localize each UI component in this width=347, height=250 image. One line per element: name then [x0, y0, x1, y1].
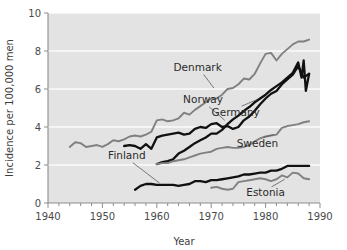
series-label-norway: Norway	[183, 93, 223, 105]
xtick-label-1970: 1970	[198, 211, 223, 222]
x-axis-title: Year	[172, 236, 195, 247]
xtick-label-1990: 1990	[307, 211, 332, 222]
series-label-sweden: Sweden	[237, 137, 279, 149]
ytick-label-2: 2	[35, 160, 41, 171]
xtick-label-1960: 1960	[144, 211, 169, 222]
incidence-line-chart: 0246810194019501960197019801990 DenmarkN…	[0, 0, 347, 250]
ytick-label-0: 0	[35, 198, 41, 209]
series-label-finland: Finland	[108, 149, 146, 161]
ytick-label-4: 4	[35, 122, 41, 133]
chart-figure: 0246810194019501960197019801990 DenmarkN…	[0, 0, 347, 250]
ytick-label-6: 6	[35, 84, 41, 95]
ytick-label-8: 8	[35, 46, 41, 57]
xtick-label-1980: 1980	[253, 211, 278, 222]
series-label-estonia: Estonia	[246, 186, 285, 198]
plot-area-background	[48, 13, 320, 203]
ytick-label-10: 10	[28, 8, 41, 19]
series-label-germany: Germany	[212, 106, 260, 118]
y-axis-title: Incidence per 100,000 men	[4, 39, 15, 177]
xtick-label-1940: 1940	[35, 211, 60, 222]
series-label-denmark: Denmark	[173, 61, 222, 73]
xtick-label-1950: 1950	[90, 211, 115, 222]
